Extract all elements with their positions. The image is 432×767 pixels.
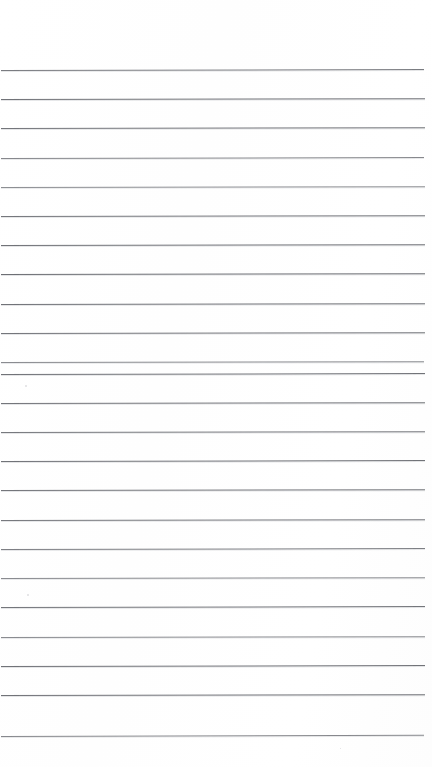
writing-area[interactable] bbox=[1, 70, 425, 737]
scan-speck bbox=[340, 748, 341, 749]
scanned-page bbox=[0, 0, 432, 767]
